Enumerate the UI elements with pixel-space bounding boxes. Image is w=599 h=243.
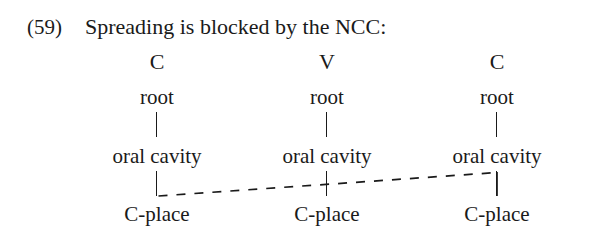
dashed-spreading-line [159,173,498,197]
example-figure: (59)Spreading is blocked by the NCC: C r… [0,0,599,243]
spreading-line-layer [0,0,599,243]
spreading-line-svg [0,0,599,243]
